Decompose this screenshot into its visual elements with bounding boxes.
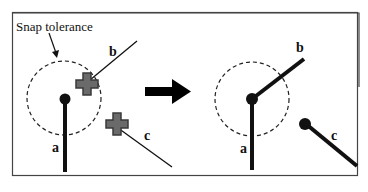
label-b-after: b	[296, 40, 304, 55]
line-c-endpoint-after	[299, 118, 311, 130]
line-a-endpoint-before	[60, 94, 71, 105]
snap-tolerance-label: Snap tolerance	[16, 19, 93, 34]
pointer-arrowhead-icon	[52, 50, 59, 58]
label-a-before: a	[52, 140, 59, 155]
arrow-right-icon	[145, 79, 191, 104]
label-a-after: a	[240, 141, 247, 156]
snap-tolerance-diagram: Snap tolerance a b c a b c	[0, 0, 368, 192]
label-b-before: b	[109, 44, 117, 59]
snap-tolerance-pointer	[49, 33, 56, 53]
line-b-after	[252, 59, 304, 99]
label-c-before: c	[144, 128, 150, 143]
move-cursor-icon-c	[106, 113, 128, 135]
label-c-after: c	[331, 128, 337, 143]
